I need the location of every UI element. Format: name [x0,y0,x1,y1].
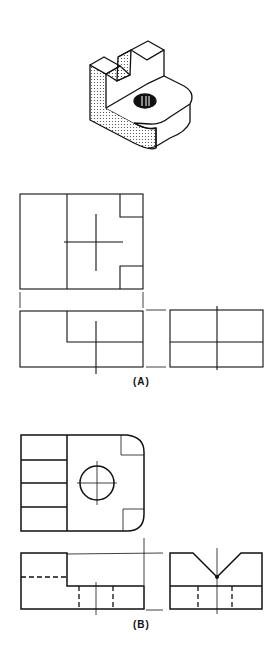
side-view-b [170,548,262,614]
panel-label-a: (A) [133,376,150,387]
panel-label-b: (B) [133,619,150,630]
isometric-view [90,41,192,149]
front-view-a [20,311,143,374]
front-view-b [21,538,163,615]
panel-a [20,194,263,374]
projection-lines-a [20,292,166,367]
top-view-b [21,435,144,531]
top-view-a [20,194,143,289]
side-view-a [170,306,263,370]
hole-icon [134,94,156,108]
drawing-canvas [0,0,277,652]
panel-b [21,435,262,615]
